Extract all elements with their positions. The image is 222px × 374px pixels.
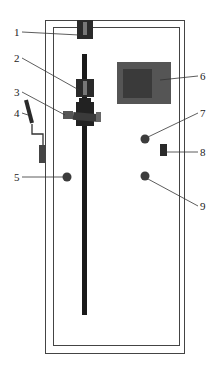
callout-1: 1 xyxy=(14,27,20,38)
left-round-button xyxy=(63,173,72,182)
callout-3: 3 xyxy=(14,87,20,98)
callout-9: 9 xyxy=(200,201,206,212)
leader-lines xyxy=(22,32,198,206)
callout-6: 6 xyxy=(200,71,206,82)
display-screen xyxy=(117,62,171,104)
top-mount-block xyxy=(77,20,93,39)
apparatus-drawing xyxy=(0,0,222,374)
side-knob-assembly xyxy=(63,111,101,122)
switch xyxy=(160,144,167,156)
upper-right-round-button xyxy=(141,135,150,144)
callout-2: 2 xyxy=(14,53,20,64)
lever-handle xyxy=(26,100,46,163)
callout-5: 5 xyxy=(14,172,20,183)
callout-7: 7 xyxy=(200,108,206,119)
upper-clamp-block xyxy=(76,79,94,97)
callout-4: 4 xyxy=(14,108,20,119)
callout-8: 8 xyxy=(200,147,206,158)
